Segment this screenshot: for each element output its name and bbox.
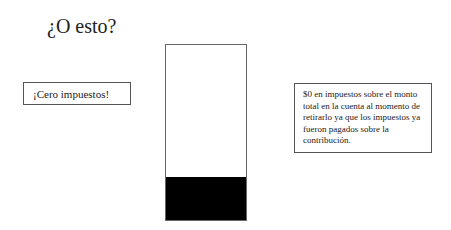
contribution-fill [166,177,246,220]
explanation-note: $0 en impuestos sobre el monto total en … [294,83,432,153]
account-bar [165,44,247,221]
zero-taxes-label: ¡Cero impuestos! [23,82,131,105]
explanation-text: $0 en impuestos sobre el monto total en … [303,89,420,145]
zero-taxes-text: ¡Cero impuestos! [33,88,109,100]
slide-title: ¿O esto? [47,15,116,38]
